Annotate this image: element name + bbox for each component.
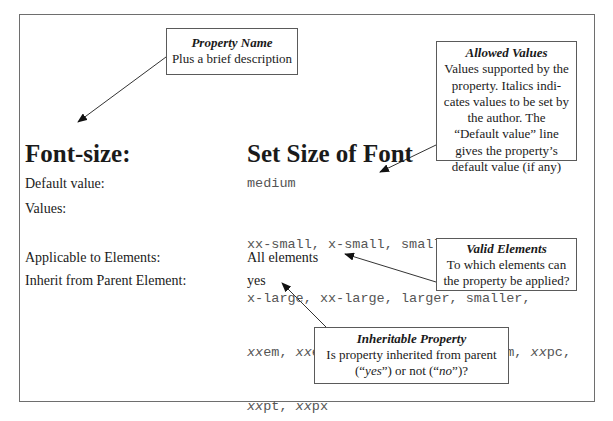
row-label-values: Values:	[25, 200, 66, 217]
values-line-author: xxpt, xxpx	[247, 398, 571, 416]
row-value-default-value: medium	[247, 175, 296, 193]
row-value-values: xx-small, x-small, small, medium, large,…	[247, 200, 571, 421]
callout-title: Valid Elements	[437, 241, 576, 257]
callout-valid-elements: Valid Elements To which elements can the…	[436, 238, 577, 291]
callout-line: Is property inherited from parent	[315, 347, 508, 363]
callout-line: property. Italics indi-	[437, 78, 576, 94]
callout-line: cates values to be set by	[437, 94, 576, 110]
callout-line: Values supported by the	[437, 61, 576, 77]
property-name-heading: Font-size:	[25, 140, 131, 168]
row-label-default-value: Default value:	[25, 175, 105, 192]
callout-title: Property Name	[167, 35, 297, 51]
callout-text: Plus a brief description	[167, 51, 297, 67]
callout-line: the property be applied?	[437, 273, 576, 289]
callout-line: “Default value” line	[437, 126, 576, 142]
arrow-property-name	[78, 57, 166, 122]
row-label-applicable: Applicable to Elements:	[25, 249, 160, 266]
values-line: x-large, xx-large, larger, smaller,	[247, 290, 571, 308]
property-description-heading: Set Size of Font	[247, 140, 413, 168]
callout-title: Allowed Values	[437, 45, 576, 61]
callout-line: the author. The	[437, 110, 576, 126]
callout-line: gives the property’s	[437, 143, 576, 159]
row-value-inherit: yes	[247, 272, 266, 289]
callout-line: To which elements can	[437, 257, 576, 273]
callout-title: Inheritable Property	[315, 331, 508, 347]
row-value-applicable: All elements	[247, 249, 318, 266]
callout-line: default value (if any)	[437, 159, 576, 175]
row-label-inherit: Inherit from Parent Element:	[25, 272, 186, 289]
callout-line: (“yes”) or not (“no”)?	[315, 363, 508, 379]
callout-inheritable: Inheritable Property Is property inherit…	[314, 327, 509, 384]
callout-allowed-values: Allowed Values Values supported by the p…	[436, 41, 577, 161]
callout-property-name: Property Name Plus a brief description	[166, 28, 298, 75]
